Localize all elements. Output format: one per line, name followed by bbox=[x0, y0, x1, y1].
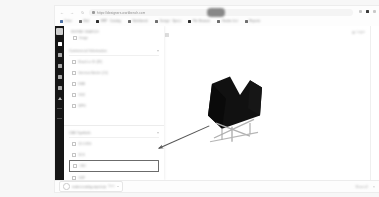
section-cad-symbols: CAD Symbols 2D DWG 3DS OBJ bbox=[64, 128, 164, 180]
filter-option[interactable]: SKU bbox=[72, 89, 156, 100]
address-bar-url: https://designers.workbench.com bbox=[97, 11, 145, 15]
bookmark-label: Vendor List bbox=[222, 19, 238, 23]
workbench-icon bbox=[128, 20, 131, 23]
download-item[interactable]: product-catalog-export.zip Done bbox=[59, 181, 123, 192]
panel-section-divider bbox=[64, 125, 164, 126]
filter-option-label: SKU bbox=[79, 93, 86, 97]
bookmark-label: Reports bbox=[249, 19, 260, 23]
filter-option-label: SKP bbox=[79, 176, 86, 180]
filter-option-label: OBJ bbox=[80, 164, 86, 168]
checkbox-icon[interactable] bbox=[72, 104, 76, 108]
grid-icon[interactable] bbox=[58, 42, 62, 46]
filter-option-label: Identical Article (24) bbox=[79, 71, 108, 75]
section-header[interactable]: Commercial Information bbox=[69, 46, 159, 56]
checkbox-icon[interactable] bbox=[72, 93, 76, 97]
filter-option-highlighted[interactable]: OBJ bbox=[69, 160, 159, 172]
chair-right bbox=[208, 76, 262, 141]
close-icon[interactable]: × bbox=[373, 185, 375, 189]
filter-option[interactable]: Identical Article (24) bbox=[72, 67, 156, 78]
bookmark-label: File Browser bbox=[193, 19, 211, 23]
bookmark-item[interactable]: Drive bbox=[60, 19, 72, 23]
filter-option[interactable]: SKP bbox=[72, 172, 156, 180]
section-title: Commercial Information bbox=[69, 49, 107, 53]
download-file-name: product-catalog-export.zip bbox=[72, 185, 107, 189]
lock-icon bbox=[92, 11, 95, 14]
checkbox-icon[interactable] bbox=[72, 176, 76, 180]
filter-option[interactable]: MPN bbox=[72, 100, 156, 111]
section-commercial-information: Commercial Information Brand or ID (89) … bbox=[64, 46, 164, 111]
checkbox-icon[interactable] bbox=[72, 60, 76, 64]
bookmark-label: Mail bbox=[83, 19, 89, 23]
list-icon[interactable] bbox=[58, 86, 62, 90]
section-header[interactable]: CAD Symbols bbox=[69, 128, 159, 138]
folder-icon bbox=[188, 20, 191, 23]
bookmark-item[interactable]: File Browser bbox=[188, 19, 210, 23]
rail-divider bbox=[57, 108, 62, 109]
browser-toolbar: ← → ↻ https://designers.workbench.com Dr… bbox=[55, 6, 379, 26]
rail-divider bbox=[57, 118, 62, 119]
bookmark-label: Workbench bbox=[132, 19, 148, 23]
profile-icon[interactable] bbox=[366, 10, 369, 13]
erp-icon bbox=[96, 20, 99, 23]
bookmark-label: Design · Specs bbox=[160, 19, 181, 23]
panel-top-item-label: Image bbox=[79, 36, 88, 40]
show-all-downloads-button[interactable]: Show all bbox=[356, 185, 368, 189]
filter-option-label: EAN bbox=[79, 82, 86, 86]
back-arrow-icon[interactable]: ← bbox=[59, 10, 65, 16]
bookmark-item[interactable]: Workbench bbox=[128, 19, 148, 23]
filter-option[interactable]: 3DS bbox=[72, 149, 156, 160]
filter-option-label: MPN bbox=[79, 104, 86, 108]
checkbox-icon[interactable] bbox=[72, 142, 76, 146]
bookmark-item[interactable]: Mail bbox=[79, 19, 89, 23]
bookmark-item[interactable]: ERP · Catalog bbox=[96, 19, 121, 23]
checkbox-icon[interactable] bbox=[73, 36, 77, 40]
app-icon-rail bbox=[55, 26, 64, 180]
kebab-menu-icon[interactable] bbox=[373, 10, 376, 13]
vendor-icon bbox=[217, 20, 220, 23]
bookmark-item[interactable]: Vendor List bbox=[217, 19, 237, 23]
checkbox-icon[interactable] bbox=[72, 153, 76, 157]
filter-option[interactable]: EAN bbox=[72, 78, 156, 89]
drive-icon bbox=[60, 20, 63, 23]
section-title: CAD Symbols bbox=[69, 131, 91, 135]
filter-option-label: Brand or ID (89) bbox=[79, 60, 103, 64]
download-bar-actions: Show all × bbox=[356, 185, 375, 189]
mail-icon bbox=[79, 20, 82, 23]
checkbox-icon[interactable] bbox=[73, 164, 77, 168]
screenshot-root: ← → ↻ https://designers.workbench.com Dr… bbox=[0, 0, 379, 197]
download-progress-icon bbox=[63, 183, 70, 190]
filter-option-label: 2D DWG bbox=[79, 142, 92, 146]
app-logo-icon[interactable] bbox=[56, 28, 63, 35]
forward-arrow-icon[interactable]: → bbox=[69, 10, 75, 16]
chevron-down-icon[interactable] bbox=[157, 50, 159, 52]
bookmark-item[interactable]: Design · Specs bbox=[155, 19, 181, 23]
filter-option[interactable]: Brand or ID (89) bbox=[72, 56, 156, 67]
redaction-overlay bbox=[207, 8, 225, 17]
reports-icon bbox=[245, 20, 248, 23]
toolbar-actions bbox=[359, 8, 376, 15]
page-viewport: Login bbox=[55, 26, 379, 180]
upload-icon[interactable] bbox=[58, 97, 62, 100]
tag-icon[interactable] bbox=[58, 75, 62, 79]
reload-icon[interactable]: ↻ bbox=[79, 10, 85, 16]
design-icon bbox=[155, 20, 158, 23]
download-file-status: Done bbox=[108, 185, 114, 188]
panel-title: Refine Search bbox=[71, 30, 99, 34]
filter-option-label: 3DS bbox=[79, 153, 85, 157]
cube-icon[interactable] bbox=[58, 64, 62, 68]
checkbox-icon[interactable] bbox=[72, 82, 76, 86]
download-bar: product-catalog-export.zip Done Show all… bbox=[55, 180, 379, 192]
bookmark-item[interactable]: Reports bbox=[245, 19, 261, 23]
panel-top-item[interactable]: Image bbox=[73, 36, 88, 40]
refine-search-panel: Refine Search Image Commercial Informati… bbox=[64, 26, 164, 180]
chevron-down-icon[interactable] bbox=[157, 132, 159, 134]
browser-window: ← → ↻ https://designers.workbench.com Dr… bbox=[55, 6, 379, 192]
filter-option[interactable]: 2D DWG bbox=[72, 138, 156, 149]
bookmark-label: Drive bbox=[65, 19, 72, 23]
checkbox-icon[interactable] bbox=[72, 71, 76, 75]
extensions-icon[interactable] bbox=[359, 10, 362, 13]
bookmark-label: ERP · Catalog bbox=[101, 19, 121, 23]
chevron-down-icon[interactable] bbox=[117, 186, 119, 187]
layers-icon[interactable] bbox=[58, 53, 62, 57]
bookmarks-bar: Drive Mail ERP · Catalog Workbench Desig… bbox=[55, 17, 379, 25]
